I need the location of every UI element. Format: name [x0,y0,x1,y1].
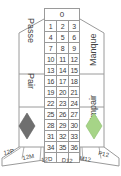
number-row: 10 11 12 [44,53,80,64]
number-cell[interactable]: 5 [56,31,68,42]
rouge-diamond-icon[interactable] [85,112,103,140]
number-cell[interactable]: 34 [44,141,56,152]
number-row: 22 23 24 [44,97,80,108]
number-cell[interactable]: 19 [44,86,56,97]
number-cell[interactable]: 23 [56,97,68,108]
bet-passe-label[interactable]: Passe [26,18,36,43]
number-cell[interactable]: 10 [44,53,56,64]
number-cell[interactable]: 35 [56,141,68,152]
noir-diamond-icon[interactable] [18,112,36,140]
number-row: 16 17 18 [44,75,80,86]
number-row: 34 35 36 [44,141,80,152]
dozen-left-3[interactable]: 12D [41,156,53,163]
number-row: 31 32 33 [44,130,80,141]
number-cell[interactable]: 26 [56,108,68,119]
number-cell[interactable]: 31 [44,130,56,141]
number-cell[interactable]: 20 [56,86,68,97]
number-cell[interactable]: 24 [68,97,80,108]
number-cell[interactable]: 3 [68,20,80,31]
number-cell[interactable]: 15 [68,64,80,75]
number-row: 13 14 15 [44,64,80,75]
number-cell[interactable]: 33 [68,130,80,141]
number-row: 1 2 3 [44,20,80,31]
number-cell[interactable]: 6 [68,31,80,42]
number-cell[interactable]: 17 [56,75,68,86]
number-cell[interactable]: 18 [68,75,80,86]
number-cell[interactable]: 9 [68,42,80,53]
number-grid: 0 1 2 3 4 5 6 7 8 9 10 11 12 13 14 15 16… [44,8,80,163]
number-cell[interactable]: 22 [44,97,56,108]
number-cell[interactable]: 7 [44,42,56,53]
number-cell[interactable]: 27 [68,108,80,119]
number-cell[interactable]: 16 [44,75,56,86]
bet-pair-label[interactable]: Pair [26,73,36,89]
number-row: 28 29 30 [44,119,80,130]
number-cell[interactable]: 25 [44,108,56,119]
number-cell[interactable]: 21 [68,86,80,97]
number-cell[interactable]: 13 [44,64,56,75]
bet-manque-label[interactable]: Manque [88,33,98,66]
dozen-right-1[interactable]: D12 [61,157,73,164]
number-row: 25 26 27 [44,108,80,119]
number-cell[interactable]: 28 [44,119,56,130]
number-row: 19 20 21 [44,86,80,97]
number-cell[interactable]: 14 [56,64,68,75]
number-cell[interactable]: 36 [68,141,80,152]
cell-zero[interactable]: 0 [44,8,80,20]
number-cell[interactable]: 32 [56,130,68,141]
number-row: 7 8 9 [44,42,80,53]
number-cell[interactable]: 2 [56,20,68,31]
number-row: 4 5 6 [44,31,80,42]
number-cell[interactable]: 1 [44,20,56,31]
number-cell[interactable]: 29 [56,119,68,130]
number-cell[interactable]: 4 [44,31,56,42]
number-cell[interactable]: 12 [68,53,80,64]
number-cell[interactable]: 8 [56,42,68,53]
roulette-table-layout: 0 1 2 3 4 5 6 7 8 9 10 11 12 13 14 15 16… [0,0,121,176]
number-cell[interactable]: 11 [56,53,68,64]
number-cell[interactable]: 30 [68,119,80,130]
